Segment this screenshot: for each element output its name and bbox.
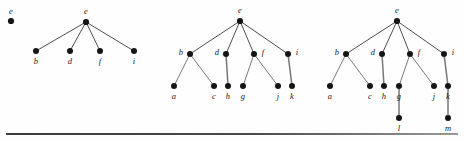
tree-node	[394, 18, 400, 24]
tree-node	[33, 48, 39, 54]
node-label: d	[371, 48, 375, 57]
tree-node	[343, 51, 349, 57]
tree-node	[379, 51, 385, 57]
node-label: b	[34, 57, 38, 66]
tree-node	[367, 83, 373, 89]
tree-node	[381, 83, 387, 89]
depth-three-tree	[171, 18, 295, 89]
tree-figure: eebdfiebdfiachgjkebdfiachgjklm	[0, 0, 464, 141]
node-label: a	[328, 92, 332, 101]
tree-node	[445, 83, 451, 89]
node-label: e	[238, 6, 242, 15]
tree-node	[211, 83, 217, 89]
node-label: e	[84, 7, 88, 16]
tree-node	[83, 19, 89, 25]
tree-edge	[288, 54, 292, 86]
single-node-graph	[8, 18, 14, 24]
tree-node	[396, 115, 402, 121]
node-label: h	[382, 92, 386, 101]
tree-node	[187, 51, 193, 57]
node-label: f	[418, 48, 420, 57]
tree-edge	[330, 54, 346, 86]
node-label: a	[172, 92, 176, 101]
graph-canvas	[0, 0, 464, 141]
node-label: k	[446, 92, 450, 101]
depth-four-tree	[327, 18, 451, 121]
tree-node	[67, 48, 73, 54]
node-label: g	[241, 92, 245, 101]
tree-edge	[382, 54, 384, 86]
tree-node	[223, 51, 229, 57]
tree-edge	[444, 54, 448, 86]
tree-node	[431, 83, 437, 89]
tree-node	[289, 83, 295, 89]
tree-node	[441, 51, 447, 57]
tree-node	[240, 83, 246, 89]
node-label: f	[99, 57, 101, 66]
node-label: i	[452, 48, 454, 57]
node-label: b	[335, 48, 339, 57]
tree-edge	[399, 54, 410, 86]
node-label: j	[277, 92, 279, 101]
node-label: d	[215, 48, 219, 57]
tree-node	[225, 83, 231, 89]
tree-node	[8, 18, 14, 24]
tree-node	[327, 83, 333, 89]
node-label: e	[9, 7, 13, 16]
tree-edge	[243, 54, 254, 86]
tree-node	[445, 115, 451, 121]
node-label: j	[433, 92, 435, 101]
node-label: b	[179, 48, 183, 57]
tree-edge	[410, 54, 434, 86]
node-label: h	[226, 92, 230, 101]
node-label: d	[68, 57, 72, 66]
node-label: i	[133, 57, 135, 66]
node-label: f	[262, 48, 264, 57]
tree-node	[131, 48, 137, 54]
node-label: k	[290, 92, 294, 101]
horizontal-rule	[6, 133, 458, 135]
node-label: m	[445, 124, 451, 133]
node-label: i	[296, 48, 298, 57]
tree-edge	[226, 54, 228, 86]
tree-edge	[190, 54, 214, 86]
tree-node	[237, 18, 243, 24]
tree-edge	[397, 21, 444, 54]
tree-edge	[174, 54, 190, 86]
depth-two-tree	[33, 19, 137, 54]
node-label: l	[398, 124, 400, 133]
tree-node	[396, 83, 402, 89]
tree-edge	[254, 54, 278, 86]
tree-node	[275, 83, 281, 89]
tree-node	[407, 51, 413, 57]
node-label: c	[368, 92, 372, 101]
node-label: c	[212, 92, 216, 101]
tree-edge	[346, 54, 370, 86]
tree-node	[171, 83, 177, 89]
tree-node	[285, 51, 291, 57]
node-label: e	[395, 6, 399, 15]
tree-node	[97, 48, 103, 54]
node-label: g	[397, 92, 401, 101]
tree-node	[251, 51, 257, 57]
